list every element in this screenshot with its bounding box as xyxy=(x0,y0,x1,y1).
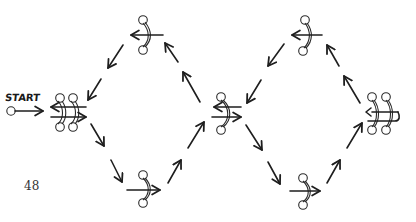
center-figure xyxy=(212,93,241,135)
page-number: 48 xyxy=(24,179,39,193)
start-circle-icon xyxy=(7,107,15,115)
start-marker xyxy=(7,107,43,115)
left-double-figure xyxy=(51,94,86,132)
path-arrows-right-loop xyxy=(246,44,362,184)
path-arrows-left-loop xyxy=(88,43,204,183)
bottom-left-figure xyxy=(127,171,160,208)
start-label: START xyxy=(4,92,40,103)
bottom-right-figure xyxy=(290,174,320,210)
top-left-figure xyxy=(131,16,163,55)
top-right-figure xyxy=(292,16,322,56)
right-double-figure xyxy=(366,93,399,135)
figure-8-path-diagram: START 48 xyxy=(0,0,416,222)
